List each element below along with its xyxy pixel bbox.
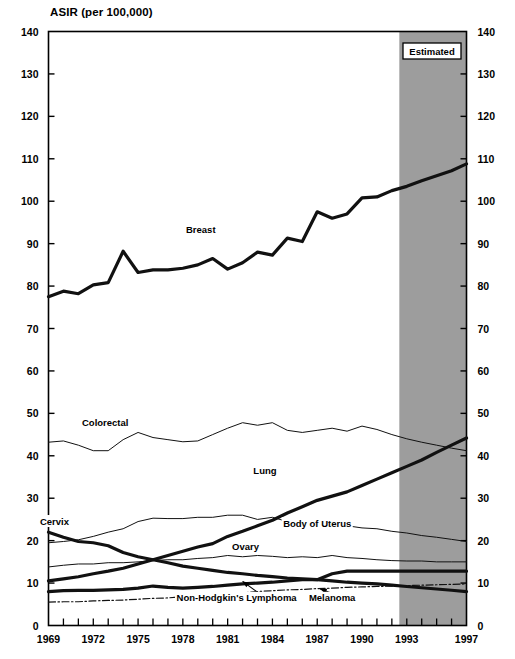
- x-tick-label: 1975: [126, 633, 150, 645]
- x-tick-label: 1990: [350, 633, 374, 645]
- x-tick-label: 1972: [82, 633, 106, 645]
- series-label-non-hodgkin-s-lymphoma: Non-Hodgkin's Lymphoma: [177, 592, 298, 603]
- x-tick-label: 1969: [37, 633, 61, 645]
- series-label-melanoma: Melanoma: [309, 592, 356, 603]
- y-tick-label-right: 130: [478, 68, 496, 80]
- x-tick-label: 1987: [306, 633, 330, 645]
- series-label-ovary: Ovary: [232, 541, 260, 552]
- x-tick-label: 1984: [261, 633, 285, 645]
- y-tick-label-right: 80: [478, 280, 490, 292]
- series-label-lung: Lung: [253, 465, 276, 476]
- y-tick-label-left: 130: [21, 68, 39, 80]
- y-tick-label-right: 30: [478, 492, 490, 504]
- y-tick-label-left: 70: [27, 323, 39, 335]
- series-label-cervix: Cervix: [40, 516, 70, 527]
- y-tick-label-right: 60: [478, 365, 490, 377]
- chart-plot-svg: 0102030405060708090100110120130140 01020…: [0, 0, 515, 659]
- y-tick-label-right: 110: [478, 153, 495, 165]
- y-tick-label-right: 10: [478, 577, 490, 589]
- y-tick-label-right: 90: [478, 238, 490, 250]
- estimated-badge-label: Estimated: [409, 46, 455, 57]
- series-label-body-of-uterus: Body of Uterus: [283, 518, 351, 529]
- series-label-breast: Breast: [186, 224, 216, 235]
- y-tick-label-right: 50: [478, 407, 490, 419]
- y-tick-label-left: 90: [27, 238, 39, 250]
- y-axis-labels-right: 0102030405060708090100110120130140: [478, 26, 496, 632]
- x-axis-labels: 1969197219751978198119841987199019931997: [37, 633, 479, 645]
- y-tick-label-left: 0: [33, 620, 39, 632]
- y-tick-label-left: 140: [21, 26, 39, 38]
- x-tick-label: 1981: [216, 633, 240, 645]
- y-tick-label-right: 0: [478, 620, 484, 632]
- series-label-colorectal: Colorectal: [82, 417, 128, 428]
- estimated-badge: Estimated: [403, 43, 461, 59]
- x-tick-label: 1993: [395, 633, 419, 645]
- y-tick-label-left: 100: [21, 195, 39, 207]
- y-tick-label-left: 120: [21, 110, 39, 122]
- y-tick-label-left: 20: [27, 535, 39, 547]
- y-tick-label-left: 60: [27, 365, 39, 377]
- x-tick-label: 1978: [171, 633, 195, 645]
- y-tick-label-left: 10: [27, 577, 39, 589]
- y-axis-labels-left: 0102030405060708090100110120130140: [21, 26, 39, 632]
- y-tick-label-left: 110: [22, 153, 39, 165]
- y-tick-label-right: 100: [478, 195, 496, 207]
- y-tick-label-left: 50: [27, 407, 39, 419]
- y-tick-label-right: 20: [478, 535, 490, 547]
- y-tick-label-right: 140: [478, 26, 496, 38]
- y-tick-label-right: 40: [478, 450, 490, 462]
- y-tick-label-left: 40: [27, 450, 39, 462]
- y-tick-label-left: 30: [27, 492, 39, 504]
- x-tick-label: 1997: [455, 633, 479, 645]
- y-tick-label-right: 120: [478, 110, 496, 122]
- y-tick-label-left: 80: [27, 280, 39, 292]
- chart-container: ASIR (per 100,000) 010203040506070809010…: [0, 0, 515, 659]
- y-tick-label-right: 70: [478, 323, 490, 335]
